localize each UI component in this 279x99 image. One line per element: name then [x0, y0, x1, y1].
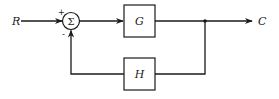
input-label-r: R	[11, 15, 20, 28]
sigma-symbol: Σ	[67, 16, 74, 27]
plus-sign: +	[58, 8, 65, 17]
feedback-arrow-to-sum	[71, 31, 124, 75]
summing-junction: Σ	[63, 13, 80, 30]
feedback-line-to-h	[155, 21, 205, 74]
g-label: G	[135, 15, 144, 28]
block-diagram: R Σ + - G C H	[0, 0, 279, 99]
forward-block-g: G	[124, 5, 155, 37]
minus-sign: -	[62, 30, 65, 39]
output-label-c: C	[258, 15, 267, 28]
h-label: H	[134, 68, 145, 81]
feedback-block-h: H	[124, 58, 155, 90]
